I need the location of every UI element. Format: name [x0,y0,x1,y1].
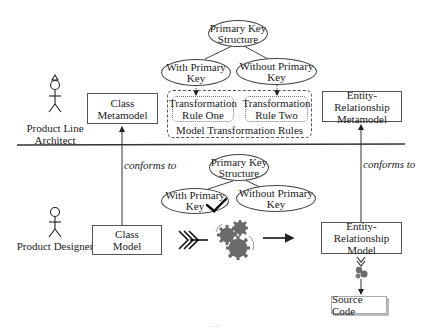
without-primary-key-node[interactable]: Without PrimaryKey [236,58,317,85]
transformation-rule-two[interactable]: TransformationRule Two [245,96,308,122]
designer-actor-icon [49,208,61,238]
model-without-primary-key-node[interactable]: Without PrimaryKey [236,185,316,212]
with-primary-key-node[interactable]: With PrimaryKey [161,59,231,86]
er-conforms-to-label: conforms to [363,158,415,170]
er-metamodel-box[interactable]: Entity-RelationshipMetamodel [322,91,402,122]
architect-actor-icon [49,75,61,112]
generation-icon [356,257,368,279]
primary-key-structure-node[interactable]: Primary KeyStructure [208,20,268,47]
source-code-box[interactable]: Source Code [331,296,387,314]
er-model-box[interactable]: Entity-RelationshipModel [321,222,402,254]
rules-group-title: Model Transformation Rules [167,124,312,136]
model-with-primary-key-node[interactable]: With PrimaryKey [161,188,229,214]
transformation-rule-one[interactable]: TransformationRule One [172,96,234,122]
fletching-chevron-icon [179,231,208,249]
gears-icon [216,220,254,260]
architect-label: Product Line Architect [20,122,90,146]
class-conforms-to-label: conforms to [124,159,176,171]
class-metamodel-box[interactable]: ClassMetamodel [87,93,158,124]
model-primary-key-structure-node[interactable]: Primary KeyStructure [209,154,269,181]
figure-caption-fragment: ... [0,318,422,328]
designer-label: Product Designer [12,240,98,252]
class-model-box[interactable]: ClassModel [92,225,162,255]
